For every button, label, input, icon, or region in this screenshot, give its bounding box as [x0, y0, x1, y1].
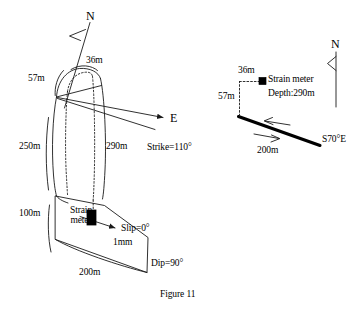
north-arrow-head-right — [328, 57, 337, 71]
depth-label: Depth:290m — [268, 89, 315, 99]
dim-label-200m-left: 200m — [79, 268, 100, 278]
block-right-outer-edge — [101, 79, 106, 200]
bearing-label: S70°E — [322, 135, 346, 145]
dim-label-57m-left: 57m — [28, 74, 45, 84]
east-arrow — [58, 98, 164, 118]
slip-amount-label: 1mm — [113, 238, 132, 248]
dim-label-250m: 250m — [19, 142, 40, 152]
figure-caption: Figure 11 — [160, 290, 195, 300]
strike-label: Strike=110° — [147, 143, 192, 153]
strain-meter-label-left-line2: meter — [59, 215, 103, 225]
block-top-face-edge — [57, 86, 102, 98]
dim-label-36m-left: 36m — [86, 56, 103, 66]
east-label: E — [170, 112, 177, 125]
dim-label-200m-right: 200m — [257, 146, 278, 156]
block-back-right-dashed-edge — [93, 77, 95, 201]
strain-meter-label-left-line1: Strain — [59, 205, 103, 215]
north-label-left: N — [86, 10, 95, 23]
strain-meter-label-left: Strain meter — [59, 205, 103, 226]
north-arrow-head-left — [70, 30, 86, 41]
block-back-left-dashed-edge — [66, 92, 68, 196]
left-block-diagram — [46, 23, 163, 273]
dim-arc-250m — [46, 118, 48, 191]
dip-label: Dip=90° — [151, 259, 183, 269]
dim-label-57m-right: 57m — [218, 92, 235, 102]
shear-arrow-lower-head — [271, 135, 280, 142]
strain-meter-label-right: Strain meter — [268, 75, 314, 85]
north-label-right: N — [331, 38, 340, 51]
strike-line — [58, 99, 156, 130]
block-top-outer-arc — [57, 68, 101, 97]
block-left-outer-edge — [53, 97, 57, 196]
dim-label-36m-right: 36m — [238, 66, 255, 76]
figure-11-diagram: N 36m 57m E 250m 290m Strike=110° 100m S… — [0, 0, 364, 310]
dim-arc-100m — [48, 205, 51, 252]
strain-meter-marker-right — [259, 78, 266, 85]
dim-arc-57m — [55, 71, 63, 96]
shear-arrow-upper-head — [264, 118, 273, 125]
fault-trace — [239, 117, 321, 146]
dim-label-290m-left: 290m — [106, 142, 127, 152]
dim-label-100m: 100m — [19, 209, 40, 219]
slip-label: Slip=0° — [121, 224, 150, 234]
